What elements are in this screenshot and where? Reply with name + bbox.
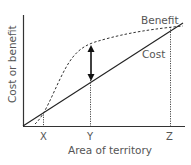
cost-line bbox=[23, 23, 183, 126]
benefit-curve bbox=[35, 26, 183, 124]
cost-label: Cost bbox=[142, 48, 165, 60]
x-axis-title: Area of territory bbox=[68, 144, 152, 156]
y-tick-label: Y bbox=[86, 131, 94, 142]
z-tick-label: Z bbox=[166, 131, 173, 142]
territory-cost-benefit-diagram: Benefit Cost X Y Z Area of territory Cos… bbox=[0, 0, 191, 165]
net-benefit-arrow-icon bbox=[88, 45, 95, 81]
x-tick-label: X bbox=[40, 131, 47, 142]
y-axis-title: Cost or benefit bbox=[6, 25, 18, 103]
benefit-label: Benefit bbox=[141, 14, 179, 26]
